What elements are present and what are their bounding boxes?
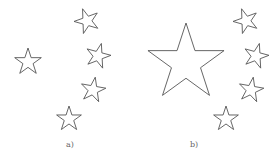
- star-icon: [82, 77, 106, 101]
- star-icon: [233, 9, 257, 34]
- star-icon: [15, 48, 42, 73]
- star-icon: [148, 23, 224, 95]
- star-icon: [87, 43, 111, 68]
- star-diagram: [0, 0, 279, 160]
- star-icon: [74, 9, 98, 34]
- panel-b: [148, 9, 269, 130]
- star-icon: [57, 106, 82, 130]
- star-icon: [214, 106, 239, 130]
- panel-b-label: b): [190, 140, 198, 149]
- star-icon: [240, 77, 264, 101]
- panel-a-label: a): [66, 140, 74, 149]
- star-icon: [245, 43, 269, 68]
- panel-a: [15, 9, 111, 130]
